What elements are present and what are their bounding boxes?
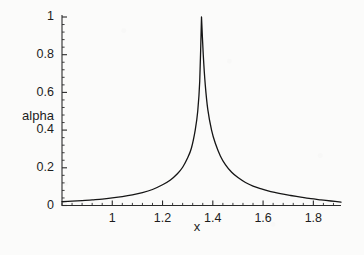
plot-canvas: 00.20.40.60.81 11.21.41.61.8 alpha x — [0, 0, 364, 255]
y-tick-label: 0.6 — [37, 85, 54, 99]
x-tick-label: 1.8 — [305, 211, 322, 225]
y-tick-label: 0.8 — [37, 47, 54, 61]
x-tick-label: 1.2 — [154, 211, 171, 225]
y-tick-label: 0.2 — [37, 160, 54, 174]
y-tick-label: 1 — [47, 9, 54, 23]
y-tick-label: 0 — [47, 198, 54, 212]
y-axis-label: alpha — [22, 108, 55, 123]
x-axis-label: x — [194, 219, 201, 234]
y-tick-label: 0.4 — [37, 122, 54, 136]
x-tick-label: 1.6 — [254, 211, 271, 225]
x-tick-label: 1.4 — [204, 211, 221, 225]
x-tick-label: 1 — [109, 211, 116, 225]
